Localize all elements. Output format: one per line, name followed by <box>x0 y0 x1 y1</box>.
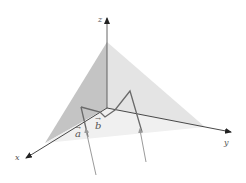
vector-b-arrow: → <box>95 115 101 123</box>
ray-b <box>140 130 146 162</box>
z-axis-label: z <box>97 15 103 24</box>
diagram-canvas: z x y a → b → <box>0 0 246 183</box>
vector-a-arrow: → <box>75 124 81 132</box>
y-axis-label: y <box>223 138 229 147</box>
plane <box>45 42 205 143</box>
x-axis-label: x <box>15 153 20 162</box>
